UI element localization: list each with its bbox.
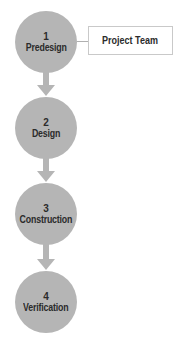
stage-label: Design (32, 128, 60, 140)
stage-number: 2 (43, 117, 49, 129)
stage-label: Verification (23, 302, 68, 314)
stage-construction: 3 Construction (15, 183, 77, 245)
down-arrow-icon (37, 158, 55, 183)
stage-label: Predesign (26, 42, 67, 54)
process-flow-diagram: 1 Predesign Project Team 2 Design 3 Cons… (0, 0, 183, 348)
project-team-label: Project Team (103, 35, 159, 46)
connector-line (77, 41, 88, 42)
down-arrow-icon (37, 72, 55, 97)
stage-verification: 4 Verification (15, 271, 77, 333)
project-team-box: Project Team (88, 26, 173, 55)
down-arrow-icon (37, 244, 55, 271)
stage-label: Construction (20, 214, 73, 226)
stage-design: 2 Design (15, 97, 77, 159)
stage-number: 1 (43, 31, 49, 43)
stage-number: 3 (43, 203, 49, 215)
stage-number: 4 (43, 291, 49, 303)
stage-predesign: 1 Predesign (15, 11, 77, 73)
